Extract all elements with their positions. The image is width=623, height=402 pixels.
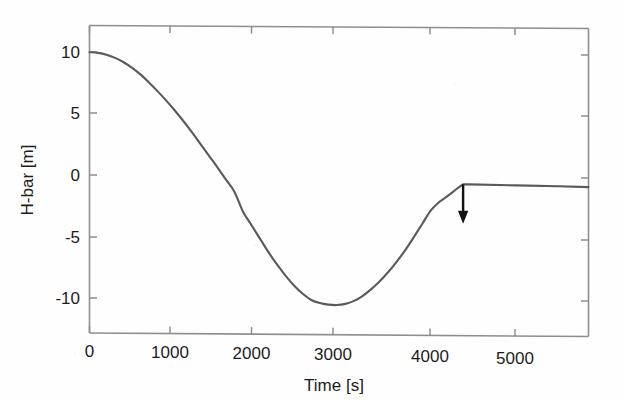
axis-top xyxy=(90,26,589,29)
x-tick-marks xyxy=(90,26,516,336)
x-tick-label-4000: 4000 xyxy=(411,347,449,366)
y-tick-label-minus10: -10 xyxy=(55,289,80,308)
axis-frame xyxy=(90,26,589,337)
data-series-h-bar xyxy=(90,52,589,305)
y-tick-labels: 10 5 0 -5 -10 xyxy=(55,43,80,308)
y-tick-label-5: 5 xyxy=(71,104,80,123)
x-tick-label-1000: 1000 xyxy=(151,343,189,362)
annotation-down-arrow xyxy=(458,184,468,223)
y-tick-label-0: 0 xyxy=(71,166,80,185)
chart-figure: 10 5 0 -5 -10 0 1000 2000 3000 4000 5000… xyxy=(0,0,623,402)
axis-bottom xyxy=(90,333,589,337)
chart-plot-area: 10 5 0 -5 -10 0 1000 2000 3000 4000 5000… xyxy=(0,0,623,402)
y-tick-marks xyxy=(90,52,589,301)
x-axis-title: Time [s] xyxy=(304,376,364,395)
y-tick-label-minus5: -5 xyxy=(65,228,80,247)
x-tick-label-0: 0 xyxy=(85,342,94,361)
down-arrow-head xyxy=(458,211,468,224)
x-tick-label-2000: 2000 xyxy=(233,344,271,363)
y-axis-title: H-bar [m] xyxy=(18,145,37,216)
x-tick-labels: 0 1000 2000 3000 4000 5000 xyxy=(85,342,534,368)
y-tick-label-10: 10 xyxy=(61,43,80,62)
x-tick-label-3000: 3000 xyxy=(314,345,352,364)
x-tick-label-5000: 5000 xyxy=(496,349,534,368)
